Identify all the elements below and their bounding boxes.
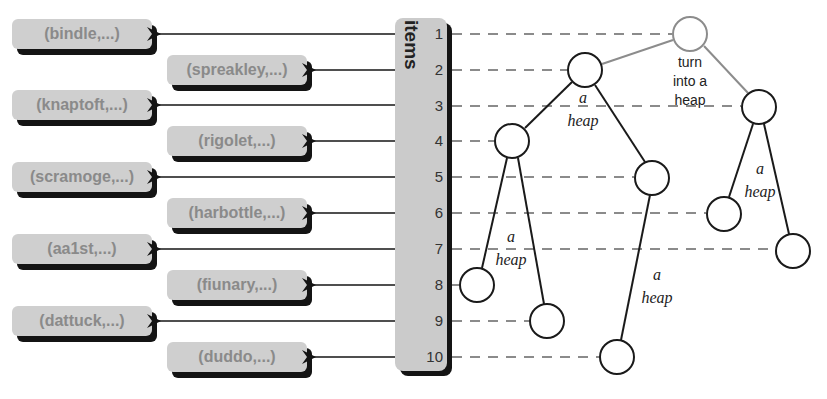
heap-annotation-node3: a heap [744, 160, 775, 201]
tree-node-2 [568, 53, 602, 87]
turn-label-2: into a [673, 73, 707, 89]
turn-label-1: turn [678, 54, 702, 70]
heap-diagram: turn into a heap a heap a heap a heap a … [0, 0, 827, 399]
heap-annotation-node2: a heap [567, 89, 598, 130]
svg-text:heap: heap [641, 289, 672, 307]
tree-node-10 [600, 340, 634, 374]
turn-label-3: heap [674, 92, 705, 108]
tree-node-6 [707, 197, 741, 231]
tree-node-8 [460, 268, 494, 302]
root-annotation: turn into a heap [673, 54, 707, 108]
dashed-guides [452, 34, 775, 357]
svg-text:a: a [507, 228, 515, 245]
heap-annotation-node5: a heap [641, 266, 672, 307]
tree-node-1 [673, 17, 707, 51]
svg-text:heap: heap [744, 183, 775, 201]
tree-node-4 [495, 124, 529, 158]
svg-text:a: a [579, 89, 587, 106]
pointer-arrows [159, 34, 395, 357]
tree-node-3 [742, 90, 776, 124]
svg-text:heap: heap [567, 112, 598, 130]
svg-text:heap: heap [495, 251, 526, 269]
svg-text:a: a [756, 160, 764, 177]
svg-text:a: a [653, 266, 661, 283]
tree-node-7 [776, 234, 810, 268]
tree-node-5 [635, 161, 669, 195]
tree-edges [482, 40, 789, 340]
tree-node-9 [530, 304, 564, 338]
